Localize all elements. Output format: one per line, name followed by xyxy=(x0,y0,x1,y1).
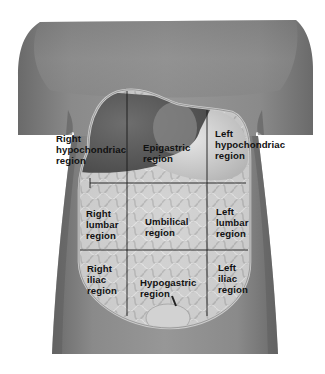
torso-illustration xyxy=(0,0,325,374)
label-left-lumbar: Left lumbar region xyxy=(216,206,249,239)
label-right-hypochondriac: Right hypochondriac region xyxy=(56,133,126,166)
label-right-iliac: Right iliac region xyxy=(87,263,117,296)
label-left-iliac: Left iliac region xyxy=(218,262,248,295)
label-hypogastric: Hypogastric region xyxy=(140,277,197,299)
label-epigastric: Epigastric region xyxy=(143,142,190,164)
label-umbilical: Umbilical region xyxy=(145,216,189,238)
label-right-lumbar: Right lumbar region xyxy=(86,208,119,241)
label-left-hypochondriac: Left hypochondriac region xyxy=(215,128,285,161)
abdominal-regions-figure: Right hypochondriac region Epigastric re… xyxy=(0,0,325,374)
